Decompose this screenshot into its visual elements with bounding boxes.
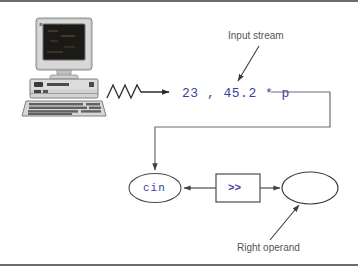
- connector-zigzag-arrow: [107, 85, 169, 98]
- connector-stream-to-cin: [155, 92, 330, 170]
- desktop-computer-icon: [22, 18, 106, 116]
- slide-canvas: 23 , 45.2 * p cin >> Input stream Right …: [0, 0, 358, 266]
- annotation-right-operand: Right operand: [237, 242, 300, 253]
- diagram-vector-layer: [0, 2, 358, 266]
- annotation-input-stream: Input stream: [228, 30, 284, 41]
- input-stream-value: 23 , 45.2 * p: [182, 86, 290, 101]
- connector-input-stream-pointer: [238, 46, 259, 81]
- cin-label: cin: [143, 182, 166, 194]
- node-right-operand[interactable]: [282, 172, 338, 204]
- connector-right-operand-pointer: [270, 205, 299, 240]
- operator-label: >>: [228, 182, 241, 194]
